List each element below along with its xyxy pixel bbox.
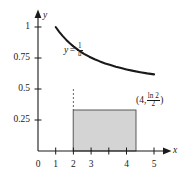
y-tick-label-1: 1: [2, 22, 30, 32]
y-tick-label-0-75: 0.75: [2, 53, 30, 63]
shaded-rectangle: [73, 110, 136, 151]
x-tick-label-5: 5: [152, 160, 157, 170]
x-tick-label-0: 0: [36, 160, 41, 170]
point-label-x-value: 4,: [139, 95, 146, 105]
y-axis-arrow-icon: [35, 10, 42, 19]
y-tick-label-0-5: 0.5: [2, 84, 30, 94]
curve-equation-equals: =: [68, 45, 76, 55]
x-tick-label-2: 2: [71, 160, 76, 170]
math-figure: 1 0.75 0.5 0.25 0 1 2 3 4 5 y x y=1u (4,…: [0, 0, 184, 176]
point-coordinate-label: (4,ln 22): [136, 93, 163, 109]
x-tick-label-3: 3: [89, 160, 94, 170]
y-tick-label-0-25: 0.25: [2, 115, 30, 125]
point-label-fraction: ln 22: [147, 93, 160, 109]
curve-equation-label: y=1u: [64, 43, 83, 59]
point-label-close-paren: ): [160, 95, 163, 105]
curve-equation-fraction: 1u: [77, 43, 83, 59]
x-tick-label-1: 1: [53, 160, 58, 170]
curve-equation-denominator: u: [77, 51, 83, 59]
y-axis-label: y: [43, 11, 47, 21]
x-axis-arrow-icon: [163, 148, 172, 155]
x-axis-label: x: [173, 146, 177, 156]
x-tick-label-4: 4: [124, 160, 129, 170]
point-label-denominator: 2: [147, 101, 160, 109]
